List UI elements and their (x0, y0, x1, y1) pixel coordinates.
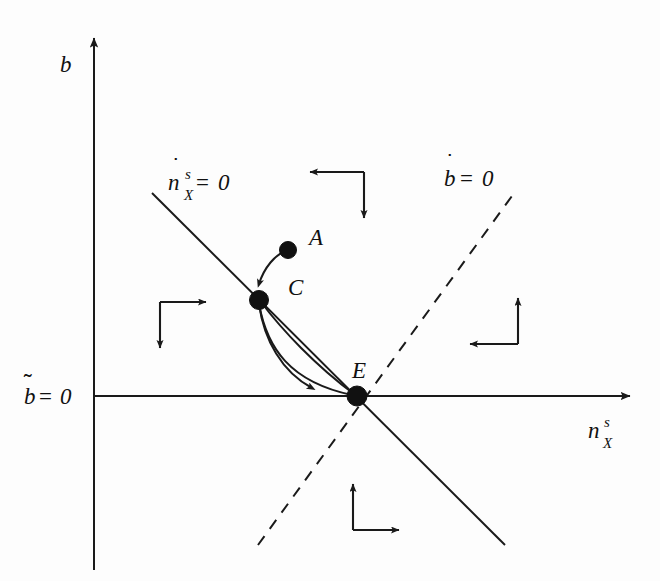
point-c-label: C (288, 275, 304, 300)
dot-accent-icon: ˙ (447, 150, 455, 176)
origin-label: b ˜ = 0 (23, 370, 72, 409)
motion-arrows-bottom (353, 484, 399, 530)
trajectory-group (259, 250, 354, 395)
motion-arrows-top (310, 172, 364, 218)
point-a-dot[interactable] (280, 242, 297, 259)
b-nullcline-label-value: 0 (482, 166, 494, 191)
nx-nullcline-label-subscript: X (183, 187, 194, 203)
origin-label-value: 0 (60, 384, 72, 409)
x-axis-label-base: n (588, 418, 600, 443)
nx-nullcline-line (152, 193, 505, 545)
tilde-accent-icon: ˜ (23, 370, 32, 396)
motion-arrows-right (470, 298, 518, 344)
origin-label-operator: = (39, 384, 52, 409)
nx-nullcline-label: n ˙ s X = 0 (168, 154, 230, 203)
b-nullcline-label: b ˙ = 0 (444, 150, 494, 191)
b-nullcline-label-operator: = (460, 166, 473, 191)
nx-nullcline-label-superscript: s (185, 166, 191, 182)
phase-diagram-figure: b n s X b ˜ = 0 n ˙ s X = 0 b ˙ = 0 (0, 0, 660, 581)
point-a-label: A (307, 225, 324, 250)
x-axis-label: n s X (588, 414, 613, 451)
x-axis-label-superscript: s (604, 414, 610, 430)
dot-accent-icon: ˙ (173, 154, 181, 180)
point-c-dot[interactable] (250, 291, 269, 310)
point-e-label: E (351, 358, 366, 383)
point-e-dot[interactable] (347, 386, 367, 406)
motion-arrows-left (160, 302, 206, 348)
y-axis-label: b (60, 52, 72, 77)
phase-diagram-canvas: b n s X b ˜ = 0 n ˙ s X = 0 b ˙ = 0 (0, 0, 660, 581)
nx-nullcline-label-operator: = (196, 170, 209, 195)
axes-group (94, 38, 630, 570)
x-axis-label-subscript: X (602, 435, 613, 451)
nx-nullcline-label-value: 0 (218, 170, 230, 195)
